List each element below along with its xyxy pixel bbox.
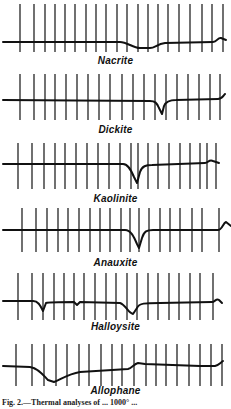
curve-anauxite [3, 208, 231, 252]
dta-trace [3, 222, 231, 248]
curve-label-halloysite: Halloysite [0, 321, 231, 332]
curve-label-dickite: Dickite [0, 124, 231, 135]
dta-trace [3, 94, 225, 114]
dta-trace [3, 361, 223, 382]
curve-dickite [3, 74, 225, 120]
dta-trace [3, 160, 219, 183]
curve-nacrite [3, 4, 226, 52]
curve-label-allophane: Allophane [0, 385, 231, 396]
dta-figure: Nacrite Dickite Kaolinite Anauxite Hallo… [0, 0, 231, 409]
curve-label-kaolinite: Kaolinite [0, 193, 231, 204]
curve-halloysite [3, 273, 222, 320]
curve-label-anauxite: Anauxite [0, 257, 231, 268]
curve-allophane [3, 344, 223, 386]
dta-trace [3, 299, 222, 314]
curve-label-nacrite: Nacrite [0, 55, 231, 66]
figure-caption: Fig. 2.—Thermal analyses of ... 1000° ..… [2, 398, 231, 407]
dta-trace [3, 38, 226, 48]
curve-kaolinite [3, 143, 219, 189]
